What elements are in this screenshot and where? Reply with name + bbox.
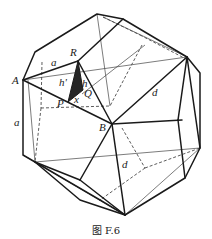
label-h: h: [82, 77, 88, 89]
label-d-upper: d: [152, 86, 158, 98]
label-a-left: a: [14, 116, 20, 128]
figure-caption: 图 F.6: [0, 222, 212, 237]
labels: A R P Q B a a h' h x d d: [11, 46, 158, 170]
label-A: A: [11, 74, 19, 86]
visible-edges: [23, 14, 200, 215]
label-B: B: [99, 121, 106, 133]
polyhedron-diagram: A R P Q B a a h' h x d d: [0, 0, 212, 239]
label-a-top: a: [51, 56, 57, 68]
label-x: x: [73, 93, 79, 105]
label-d-lower: d: [122, 158, 128, 170]
label-R: R: [69, 46, 77, 58]
label-h-prime: h': [59, 76, 68, 88]
label-P: P: [56, 97, 64, 109]
